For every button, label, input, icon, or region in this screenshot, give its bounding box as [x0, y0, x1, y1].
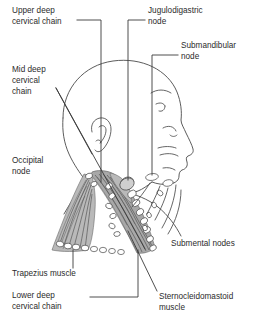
anatomy-diagram: Upper deep cervical chain Jugulodigastri… — [0, 0, 258, 329]
label-mid-deep-cervical-chain-line2: cervical — [12, 76, 40, 85]
label-sternocleidomastoid-muscle-line1: Sternocleidomastoid — [159, 292, 234, 301]
label-upper-deep-cervical-chain-line1: Upper deep — [12, 6, 55, 15]
label-lower-deep-cervical-chain-line1: Lower deep — [12, 291, 55, 300]
label-submandibular-node-line2: node — [181, 52, 200, 61]
label-mid-deep-cervical-chain-line3: chain — [12, 87, 32, 96]
label-trapezius-muscle: Trapezius muscle — [12, 269, 76, 278]
label-sternocleidomastoid-muscle-line2: muscle — [159, 303, 185, 312]
label-jugulodigastric-node-line2: node — [148, 17, 167, 26]
label-occipital-node-line1: Occipital — [12, 156, 44, 165]
label-jugulodigastric-node-line1: Jugulodigastric — [148, 6, 203, 15]
label-upper-deep-cervical-chain-line2: cervical chain — [12, 17, 62, 26]
label-submandibular-node-line1: Submandibular — [181, 41, 236, 50]
label-lower-deep-cervical-chain-line2: cervical chain — [12, 302, 62, 311]
label-mid-deep-cervical-chain-line1: Mid deep — [12, 65, 46, 74]
label-submental-nodes: Submental nodes — [171, 239, 235, 248]
label-occipital-node-line2: node — [12, 167, 31, 176]
anatomy-figure: Upper deep cervical chain Jugulodigastri… — [0, 0, 258, 329]
